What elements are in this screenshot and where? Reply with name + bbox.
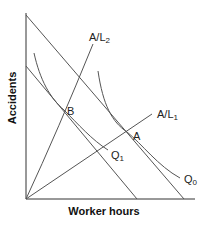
ray-a-l2 [26,44,93,199]
label-point-b: B [67,105,74,117]
isoquant-q0 [98,71,180,178]
label-a-l2: A/L2 [89,31,111,45]
label-q1: Q1 [111,149,125,163]
isoquant-diagram: A/L2 A/L1 B A Q1 Q0 Worker hours Acciden… [0,0,214,226]
label-q0: Q0 [184,173,198,187]
label-a-l1: A/L1 [157,108,179,122]
y-axis-title: Accidents [6,72,18,125]
inner-isocost-line [26,66,137,199]
label-point-a: A [133,130,141,142]
x-axis-title: Worker hours [68,205,139,217]
